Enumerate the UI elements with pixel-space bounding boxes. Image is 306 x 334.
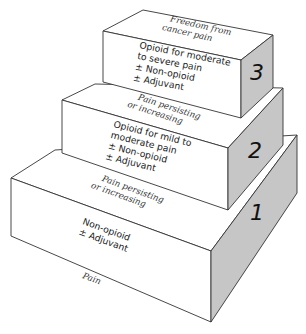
step-2-number: 2: [248, 138, 262, 163]
step-1-number: 1: [250, 200, 264, 225]
pain-ladder-diagram: 1 Non-opioid ± Adjuvant Pain persisting …: [0, 0, 306, 334]
step-3-number: 3: [250, 60, 264, 85]
